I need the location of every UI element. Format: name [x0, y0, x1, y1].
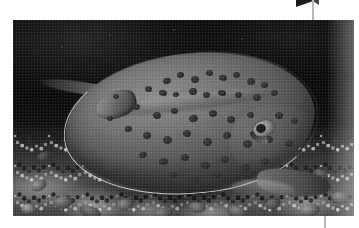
ray-spot: [243, 140, 252, 148]
stingray: [13, 20, 354, 216]
ray-spot: [169, 172, 177, 178]
ray-spot: [261, 82, 268, 88]
ray-spot: [203, 92, 210, 98]
bottom-vertical-rule: [324, 214, 326, 228]
page-canvas: [0, 0, 359, 228]
top-vertical-rule: [312, 0, 314, 21]
ray-spot: [181, 154, 189, 161]
stingray-photograph: [13, 20, 354, 216]
ray-spot: [227, 116, 235, 123]
ray-spot: [143, 132, 151, 139]
ray-spot: [133, 104, 140, 110]
ray-spot: [191, 76, 199, 83]
